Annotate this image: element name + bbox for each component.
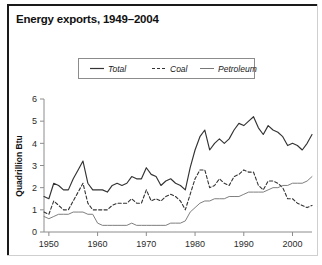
y-axis-title: Quadrillion Btu <box>14 135 24 196</box>
x-tick-label: 1960 <box>88 239 108 249</box>
legend-label-petroleum: Petroleum <box>218 64 257 74</box>
legend: TotalCoalPetroleum <box>90 64 257 74</box>
x-tick-label: 1980 <box>185 239 205 249</box>
series-line-coal <box>44 170 312 214</box>
x-tick-label: 1950 <box>39 239 59 249</box>
y-tick-label: 0 <box>32 227 37 237</box>
y-tick-label: 2 <box>32 183 37 193</box>
legend-label-total: Total <box>108 64 127 74</box>
y-tick-label: 3 <box>32 161 37 171</box>
y-tick-label: 1 <box>32 205 37 215</box>
y-tick-label: 4 <box>32 139 37 149</box>
x-axis-ticks: 195019601970198019902000 <box>39 232 303 249</box>
chart-plot-area: TotalCoalPetroleum 0123456 1950196019701… <box>0 0 322 265</box>
x-tick-label: 2000 <box>282 239 302 249</box>
legend-label-coal: Coal <box>170 64 189 74</box>
y-axis-ticks: 0123456 <box>32 94 44 237</box>
y-tick-label: 5 <box>32 116 37 126</box>
x-tick-label: 1970 <box>136 239 156 249</box>
y-tick-label: 6 <box>32 94 37 104</box>
data-series-group <box>44 117 312 226</box>
x-tick-label: 1990 <box>234 239 254 249</box>
chart-figure: Energy exports, 1949–2004 TotalCoalPetro… <box>0 0 322 265</box>
